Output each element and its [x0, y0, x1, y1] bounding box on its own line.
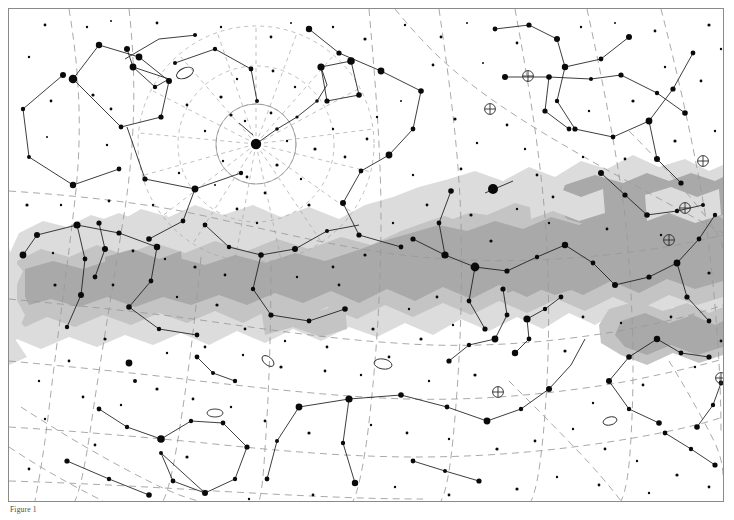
- cluster-icon: [680, 203, 691, 214]
- figure-page: Figure 1: [0, 0, 734, 520]
- star-chart-frame: [8, 8, 724, 502]
- sky-map: [9, 9, 723, 501]
- cluster-icon: [664, 235, 675, 246]
- figure-caption: Figure 1: [10, 505, 37, 514]
- cluster-icon: [523, 71, 534, 82]
- cluster-icon: [698, 156, 709, 167]
- cluster-icon: [485, 104, 496, 115]
- cluster-icon: [493, 387, 504, 398]
